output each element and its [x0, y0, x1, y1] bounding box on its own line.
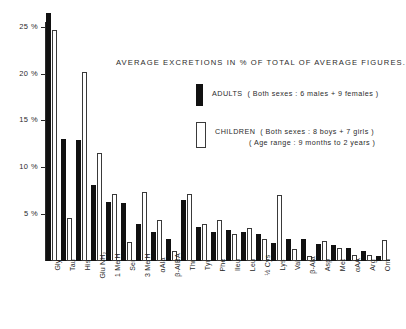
- bar-group: [271, 8, 286, 261]
- bar-adults: [196, 227, 201, 261]
- x-axis-label: αAA: [354, 258, 361, 272]
- y-axis-tick-label: 15 %: [0, 115, 38, 124]
- bar-adults: [166, 239, 171, 261]
- bar-groups: [46, 8, 391, 261]
- bar-group: [361, 8, 376, 261]
- bar-children: [112, 194, 117, 261]
- y-axis-tick-label: 5 %: [0, 209, 38, 218]
- bar-adults: [271, 243, 276, 261]
- bar-adults: [121, 203, 126, 261]
- x-axis-label-slot: αAA: [346, 263, 361, 327]
- x-axis-label: β-AIBA: [174, 253, 181, 277]
- bar-children: [142, 192, 147, 261]
- y-axis-tick-label: 20 %: [0, 69, 38, 78]
- bar-group: [376, 8, 391, 261]
- x-axis-label: Ser: [129, 259, 136, 271]
- bar-adults: [61, 139, 66, 261]
- bar-children: [67, 218, 72, 261]
- x-axis-label: Leu: [249, 259, 256, 271]
- bar-adults: [106, 202, 111, 261]
- x-axis-category-labels: GlyTauHisGlu NH₂1 Me HSer3 Me HαAlaβ-AIB…: [46, 263, 391, 327]
- bar-children: [97, 153, 102, 261]
- x-axis-label: 1 Me H: [114, 253, 121, 277]
- x-axis-label: Arg: [369, 259, 376, 271]
- x-axis-label-slot: Ser: [121, 263, 136, 327]
- x-axis-label: β-Ala: [309, 256, 316, 273]
- x-axis-label-slot: Thr: [181, 263, 196, 327]
- x-axis-label-slot: Asp: [316, 263, 331, 327]
- x-axis-label-slot: Tau: [61, 263, 76, 327]
- x-axis-label: Tyr: [204, 260, 211, 270]
- x-axis-label: αAla: [159, 258, 166, 273]
- bar-group: [121, 8, 136, 261]
- x-axis-label: Glu NH₂: [99, 251, 106, 278]
- x-axis-label: Gly: [54, 259, 61, 270]
- bar-group: [136, 8, 151, 261]
- bar-group: [256, 8, 271, 261]
- x-axis-label-slot: β-AIBA: [166, 263, 181, 327]
- x-axis-label-slot: Leu: [241, 263, 256, 327]
- bar-group: [106, 8, 121, 261]
- bar-adults: [136, 224, 141, 261]
- x-axis-label-slot: 3 Me H: [136, 263, 151, 327]
- bar-adults: [346, 248, 351, 261]
- y-axis-tick-label: 25 %: [0, 22, 38, 31]
- bar-group: [316, 8, 331, 261]
- x-axis-label-slot: Orn: [376, 263, 391, 327]
- x-axis-label-slot: Glu NH₂: [91, 263, 106, 327]
- bar-adults: [91, 185, 96, 261]
- bar-group: [61, 8, 76, 261]
- bar-group: [331, 8, 346, 261]
- x-axis-label: Tau: [69, 259, 76, 271]
- bar-children: [157, 220, 162, 261]
- x-axis-label-slot: Tyr: [196, 263, 211, 327]
- x-axis-label: His: [84, 260, 91, 271]
- x-axis-label-slot: Gly: [46, 263, 61, 327]
- x-axis-label-slot: β-Ala: [301, 263, 316, 327]
- x-axis-label: Asp: [324, 259, 331, 272]
- x-axis-label: Ileu: [234, 259, 241, 271]
- bar-adults: [46, 13, 51, 261]
- bar-adults: [301, 239, 306, 261]
- bar-adults: [286, 239, 291, 261]
- x-axis-label-slot: ½ Cys: [256, 263, 271, 327]
- x-axis-label: Lys: [279, 259, 286, 270]
- bar-adults: [211, 232, 216, 261]
- bar-children: [232, 234, 237, 261]
- bar-children: [217, 220, 222, 261]
- bar-children: [187, 194, 192, 261]
- bar-children: [202, 224, 207, 261]
- x-axis-label-slot: Met: [331, 263, 346, 327]
- x-axis-label-slot: 1 Me H: [106, 263, 121, 327]
- x-axis-label: ½ Cys: [264, 255, 271, 276]
- bar-group: [301, 8, 316, 261]
- x-axis-label: Met: [339, 259, 346, 271]
- bar-adults: [181, 200, 186, 261]
- bar-adults: [361, 251, 366, 261]
- x-axis-label-slot: Ileu: [226, 263, 241, 327]
- x-axis-label-slot: Lys: [271, 263, 286, 327]
- bar-children: [277, 195, 282, 261]
- x-axis-label: Phe: [219, 258, 226, 271]
- bar-group: [181, 8, 196, 261]
- bar-adults: [256, 234, 261, 261]
- bar-group: [211, 8, 226, 261]
- chart-figure: 5 %10 %15 %20 %25 % AVERAGE EXCRETIONS I…: [0, 0, 406, 329]
- bar-group: [286, 8, 301, 261]
- x-axis-label: Val: [294, 260, 301, 270]
- bar-adults: [376, 256, 381, 261]
- x-axis-label-slot: Val: [286, 263, 301, 327]
- bar-adults: [151, 232, 156, 261]
- bar-children: [52, 30, 57, 261]
- bar-group: [196, 8, 211, 261]
- bar-adults: [316, 244, 321, 261]
- bar-group: [226, 8, 241, 261]
- bar-children: [82, 72, 87, 261]
- bar-group: [91, 8, 106, 261]
- bar-children: [247, 228, 252, 261]
- bar-group: [241, 8, 256, 261]
- bar-adults: [241, 232, 246, 261]
- bar-group: [46, 8, 61, 261]
- bar-adults: [331, 245, 336, 261]
- x-axis-label: 3 Me H: [144, 253, 151, 277]
